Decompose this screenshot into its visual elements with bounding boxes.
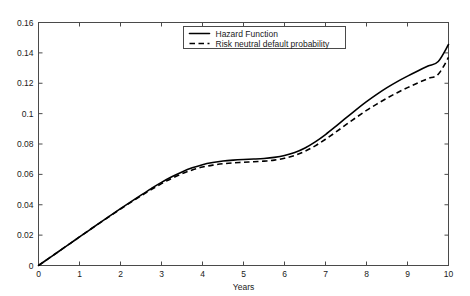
legend-label-1: Hazard Function [216, 29, 279, 39]
x-axis-title: Years [233, 282, 254, 292]
data-series-group [39, 45, 449, 266]
series-line-2 [39, 57, 449, 265]
line-chart: 012345678910 00.020.040.060.080.10.120.1… [0, 0, 470, 296]
x-tick-label: 9 [405, 269, 410, 279]
plot-frame [39, 23, 449, 266]
x-tick-label: 1 [77, 269, 82, 279]
x-tick-label: 5 [241, 269, 246, 279]
y-tick-label: 0.16 [17, 18, 34, 28]
chart-legend: Hazard FunctionRisk neutral default prob… [184, 27, 346, 49]
y-tick-label: 0.04 [17, 200, 34, 210]
x-tick-label: 3 [159, 269, 164, 279]
y-tick-label: 0 [29, 261, 34, 271]
x-tick-label: 0 [36, 269, 41, 279]
x-tick-label: 10 [444, 269, 454, 279]
y-tick-label: 0.12 [17, 78, 34, 88]
x-tick-label: 7 [323, 269, 328, 279]
y-tick-label: 0.14 [17, 48, 34, 58]
x-axis-ticks [39, 23, 449, 266]
x-axis-tick-labels: 012345678910 [36, 269, 453, 279]
y-axis-ticks [39, 23, 449, 266]
x-tick-label: 4 [200, 269, 205, 279]
y-tick-label: 0.1 [22, 109, 34, 119]
x-tick-label: 2 [118, 269, 123, 279]
chart-figure: 012345678910 00.020.040.060.080.10.120.1… [0, 0, 470, 296]
y-axis-tick-labels: 00.020.040.060.080.10.120.140.16 [17, 18, 34, 271]
legend-label-2: Risk neutral default probability [216, 39, 331, 49]
y-tick-label: 0.08 [17, 139, 34, 149]
x-tick-label: 8 [364, 269, 369, 279]
series-line-1 [39, 45, 449, 266]
y-tick-label: 0.06 [17, 169, 34, 179]
x-tick-label: 6 [282, 269, 287, 279]
y-tick-label: 0.02 [17, 230, 34, 240]
